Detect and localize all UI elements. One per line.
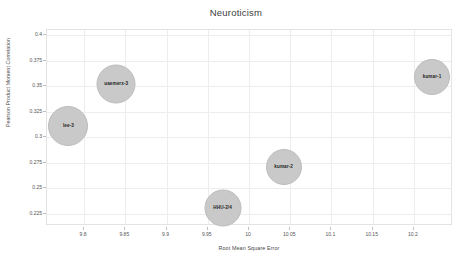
x-tick-mark (166, 227, 167, 230)
data-bubble[interactable]: kumar-2 (266, 149, 302, 185)
gridline-horizontal (47, 163, 451, 164)
y-axis-ticks: 0.2250.250.2750.30.3250.350.3750.4 (0, 29, 46, 225)
y-tick-label: 0.275 (6, 159, 46, 165)
gridline-horizontal (47, 112, 451, 113)
x-tick-mark (413, 227, 414, 230)
x-tick-mark (124, 227, 125, 230)
y-tick-label: 0.4 (6, 31, 46, 37)
gridline-horizontal (47, 61, 451, 62)
x-tick-mark (248, 227, 249, 230)
x-axis-title: Root Mean Square Error (46, 245, 452, 251)
y-tick-label: 0.25 (6, 184, 46, 190)
x-tick-mark (83, 227, 84, 230)
gridline-vertical (414, 30, 415, 224)
gridline-horizontal (47, 35, 451, 36)
gridline-horizontal (47, 214, 451, 215)
data-bubble[interactable]: lee-3 (48, 106, 88, 146)
x-tick-label: 10 (228, 231, 268, 237)
data-bubble[interactable]: HHU-2/4 (204, 189, 241, 226)
plot-area: lee-3uaemerx-3HHU-2/4kumar-2kumar-1 (46, 29, 452, 225)
gridline-vertical (373, 30, 374, 224)
x-tick-label: 9.9 (146, 231, 186, 237)
x-tick-label: 9.95 (187, 231, 227, 237)
chart-title: Neuroticism (0, 7, 472, 18)
data-bubble[interactable]: uaemerx-3 (97, 65, 136, 104)
x-tick-label: 9.8 (63, 231, 103, 237)
bubble-label: lee-3 (63, 124, 74, 129)
gridline-vertical (167, 30, 168, 224)
y-tick-label: 0.225 (6, 210, 46, 216)
data-bubble[interactable]: kumar-1 (414, 59, 450, 95)
gridline-vertical (249, 30, 250, 224)
bubble-label: kumar-1 (423, 75, 442, 80)
x-tick-label: 10.1 (310, 231, 350, 237)
scatter-chart: Neuroticism Pearson Product Moment Corre… (0, 0, 472, 269)
y-tick-label: 0.325 (6, 108, 46, 114)
x-tick-label: 10.2 (393, 231, 433, 237)
y-tick-label: 0.3 (6, 133, 46, 139)
gridline-horizontal (47, 137, 451, 138)
x-tick-mark (330, 227, 331, 230)
x-tick-label: 10.05 (269, 231, 309, 237)
bubble-label: kumar-2 (274, 165, 293, 170)
x-tick-label: 9.85 (104, 231, 144, 237)
x-tick-mark (207, 227, 208, 230)
x-tick-mark (289, 227, 290, 230)
y-tick-label: 0.375 (6, 57, 46, 63)
x-axis-ticks: 9.89.859.99.951010.0510.110.1510.2 (46, 227, 452, 241)
gridline-vertical (290, 30, 291, 224)
x-tick-label: 10.15 (352, 231, 392, 237)
gridline-vertical (125, 30, 126, 224)
gridline-vertical (331, 30, 332, 224)
gridline-horizontal (47, 188, 451, 189)
bubble-label: uaemerx-3 (104, 82, 128, 87)
x-tick-mark (372, 227, 373, 230)
bubble-label: HHU-2/4 (213, 205, 232, 210)
y-tick-label: 0.35 (6, 82, 46, 88)
